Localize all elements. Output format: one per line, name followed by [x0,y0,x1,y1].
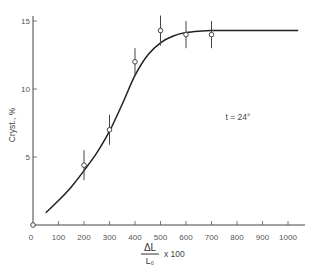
data-point [158,28,163,33]
fitted-curve-line [46,30,298,212]
x-label-numerator: ΔL [144,242,157,253]
axes [33,16,305,225]
data-point [133,60,138,65]
x-axis-label: ΔL L₀ x 100 [141,242,185,266]
x-label-denominator: L₀ [146,256,155,266]
ticks: 0100200300400500600700800900100051015 [21,17,297,242]
x-tick-label: 600 [179,233,193,242]
x-tick-label: 100 [52,233,66,242]
curve-layer [46,30,298,212]
x-tick-label: 0 [29,233,34,242]
x-tick-label: 400 [128,233,142,242]
crystallinity-chart: 0100200300400500600700800900100051015 Cr… [0,0,311,274]
x-label-multiplier: x 100 [164,249,185,259]
x-tick-label: 200 [77,233,91,242]
data-point [184,32,189,37]
data-point [31,223,36,228]
x-tick-label: 900 [256,233,270,242]
y-tick-label: 5 [26,153,31,162]
data-point [107,128,112,133]
y-axis-label: Cryst., % [7,107,17,142]
x-tick-label: 1000 [279,233,297,242]
x-tick-label: 500 [154,233,168,242]
x-tick-label: 800 [230,233,244,242]
y-tick-label: 15 [21,17,30,26]
temperature-annotation: t = 24° [226,112,251,122]
x-tick-label: 300 [103,233,117,242]
data-point [82,163,87,168]
points-layer [31,16,214,228]
y-tick-label: 10 [21,85,30,94]
x-tick-label: 700 [205,233,219,242]
data-point [209,32,214,37]
